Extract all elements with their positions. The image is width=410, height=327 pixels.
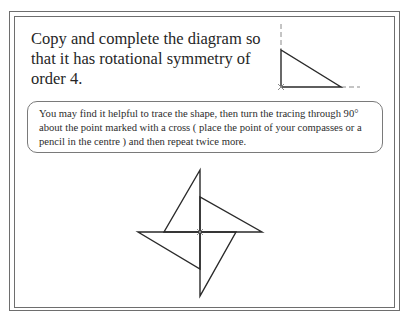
pinwheel-diagram [138, 170, 262, 296]
pinwheel-triangle-2 [164, 170, 200, 232]
starter-triangle [281, 50, 341, 87]
pinwheel-triangle-3 [138, 232, 200, 269]
pinwheel-triangle-4 [200, 232, 236, 296]
pinwheel-triangle-1 [200, 197, 262, 232]
starter-triangle-diagram [278, 24, 360, 90]
diagrams-canvas [0, 0, 410, 327]
